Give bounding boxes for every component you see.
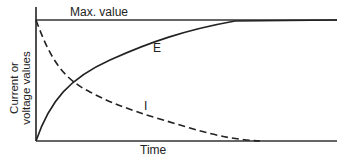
y-axis-label-line2: voltage values	[20, 51, 32, 125]
charging-curves-diagram: Max. value E I Time Current or voltage v…	[0, 0, 343, 162]
curve-e-label: E	[153, 41, 161, 55]
curve-i-label: I	[144, 99, 147, 113]
curve-e	[36, 20, 337, 141]
y-axis-label-line1: Current or	[8, 62, 20, 114]
curve-i	[36, 20, 260, 141]
x-axis-label: Time	[140, 143, 167, 157]
max-value-label: Max. value	[70, 5, 128, 19]
